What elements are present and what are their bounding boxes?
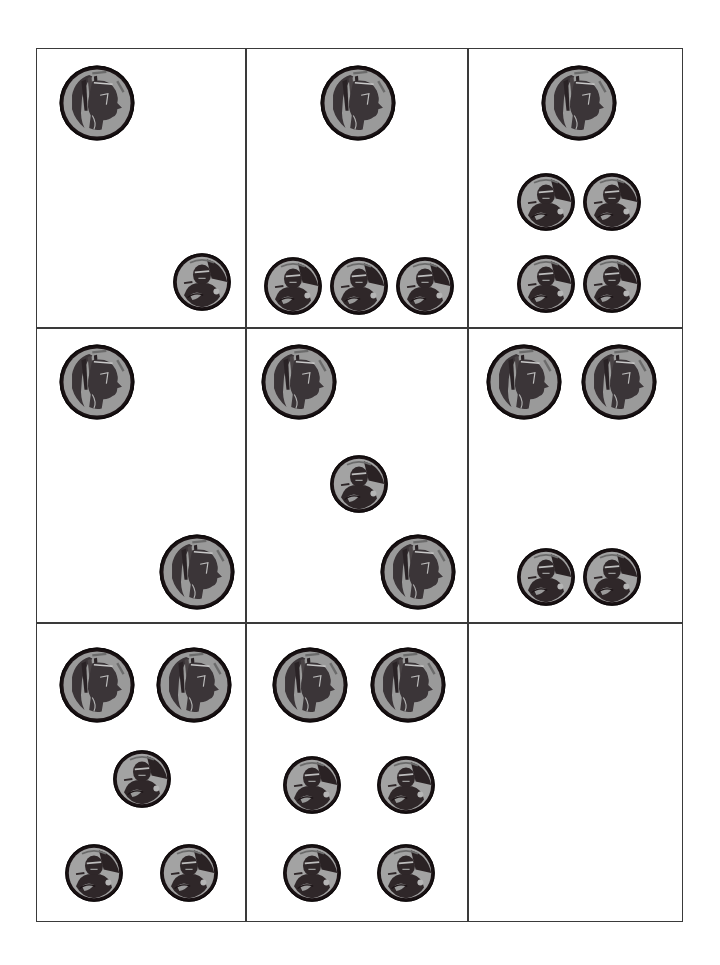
coin-cell [37, 49, 246, 328]
coin-cell [468, 623, 684, 923]
nickel-coin-icon [58, 343, 136, 421]
coin-cell [468, 328, 684, 623]
penny-coin-icon [112, 749, 172, 809]
penny-coin-icon [516, 547, 576, 607]
nickel-coin-icon [260, 343, 338, 421]
coin-cell [246, 623, 468, 923]
nickel-coin-icon [158, 533, 236, 611]
penny-coin-icon [263, 256, 323, 316]
penny-coin-icon [376, 755, 436, 815]
penny-coin-icon [159, 843, 219, 903]
penny-coin-icon [376, 843, 436, 903]
nickel-coin-icon [369, 646, 447, 724]
nickel-coin-icon [379, 533, 457, 611]
penny-coin-icon [516, 254, 576, 314]
nickel-coin-icon [58, 64, 136, 142]
penny-coin-icon [282, 755, 342, 815]
coin-cell [37, 623, 246, 923]
nickel-coin-icon [540, 64, 618, 142]
coin-counting-worksheet [0, 0, 720, 965]
nickel-coin-icon [319, 64, 397, 142]
penny-coin-icon [582, 547, 642, 607]
penny-coin-icon [172, 252, 232, 312]
nickel-coin-icon [58, 646, 136, 724]
penny-coin-icon [582, 254, 642, 314]
coin-grid [36, 48, 683, 922]
nickel-coin-icon [580, 343, 658, 421]
nickel-coin-icon [485, 343, 563, 421]
penny-coin-icon [329, 454, 389, 514]
penny-coin-icon [329, 256, 389, 316]
nickel-coin-icon [271, 646, 349, 724]
penny-coin-icon [64, 843, 124, 903]
penny-coin-icon [516, 172, 576, 232]
coin-cell [246, 328, 468, 623]
penny-coin-icon [395, 256, 455, 316]
coin-cell [37, 328, 246, 623]
coin-cell [246, 49, 468, 328]
coin-cell [468, 49, 684, 328]
nickel-coin-icon [155, 646, 233, 724]
penny-coin-icon [582, 172, 642, 232]
penny-coin-icon [282, 843, 342, 903]
